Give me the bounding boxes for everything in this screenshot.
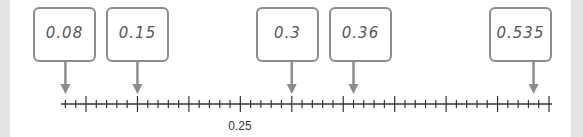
marker-box-4: 0.535 [489, 7, 552, 62]
marker-label: 0.15 [108, 24, 167, 42]
tick-label-0-25: 0.25 [228, 119, 251, 133]
marker-box-0: 0.08 [33, 7, 96, 62]
marker-box-1: 0.15 [106, 7, 169, 62]
marker-label: 0.36 [331, 24, 390, 42]
marker-label: 0.535 [491, 24, 550, 42]
marker-box-3: 0.36 [329, 7, 392, 62]
marker-label: 0.3 [258, 24, 317, 42]
marker-label: 0.08 [35, 24, 94, 42]
marker-box-2: 0.3 [256, 7, 319, 62]
